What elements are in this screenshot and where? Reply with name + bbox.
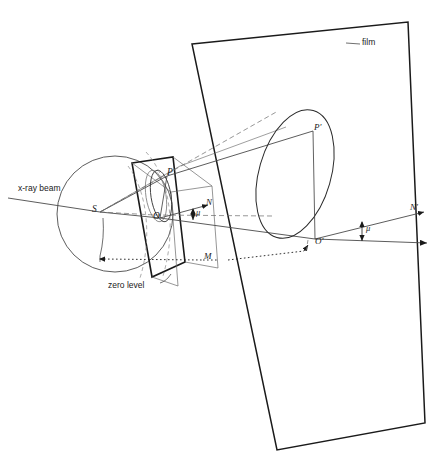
film-plane-rectangle <box>192 22 425 450</box>
label-point-N: N <box>206 198 212 207</box>
label-point-P: P <box>167 168 173 178</box>
diagram-canvas: x-ray beam zero level film S P O N M P' … <box>0 0 431 464</box>
label-film: film <box>362 38 375 47</box>
label-point-O-prime: O' <box>315 237 323 246</box>
label-point-O: O <box>153 212 160 222</box>
label-point-M: M <box>204 252 212 261</box>
drop-line-from-S <box>100 218 103 262</box>
label-zero-level: zero level <box>108 281 144 290</box>
normal-axis-N <box>160 205 208 218</box>
label-xray-beam: x-ray beam <box>18 184 61 193</box>
label-point-N-prime: N' <box>410 203 418 212</box>
label-point-S: S <box>92 205 97 215</box>
xray-beam-axis <box>8 198 160 218</box>
crystal-layer-plate <box>132 157 218 286</box>
label-point-P-prime: P' <box>314 123 321 132</box>
label-mu-right: μ <box>366 224 370 233</box>
label-mu-left: μ <box>196 208 200 217</box>
